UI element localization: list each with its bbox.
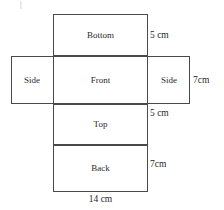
cuboid-net-figure: | Bottom Side Front Side Top Back 5 cm 7… <box>0 0 224 210</box>
face-label-top: Top <box>53 120 148 129</box>
dimension-label-band-height: 7cm <box>193 76 209 86</box>
face-label-front: Front <box>53 76 148 85</box>
dimension-label-top-height: 5 cm <box>150 109 169 119</box>
face-label-side-left: Side <box>11 76 53 85</box>
face-label-side-right: Side <box>148 76 190 85</box>
stray-mark-artifact: | <box>20 1 22 9</box>
dimension-label-width: 14 cm <box>53 195 148 205</box>
face-label-back: Back <box>53 164 148 173</box>
dimension-label-bottom-height: 5 cm <box>150 31 169 41</box>
dimension-label-back-height: 7cm <box>150 160 166 170</box>
face-label-bottom: Bottom <box>53 31 148 40</box>
